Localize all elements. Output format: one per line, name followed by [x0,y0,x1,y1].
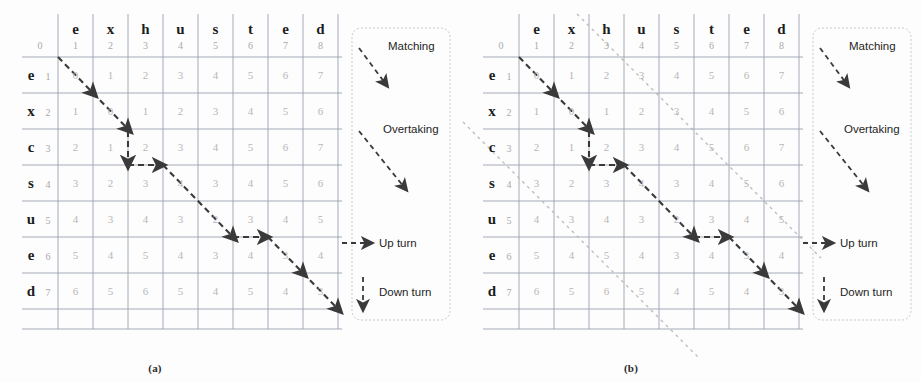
row-index-6: 7 [46,287,51,298]
cell-3-7: 5 [283,177,289,189]
legend-label-matching: Matching [849,40,896,52]
cell-5-5: 3 [674,249,680,261]
row-index-1: 2 [507,107,512,118]
figure-root: exhusted012345678e101234567x210123456c32… [0,0,921,382]
cell-1-3: 1 [143,105,149,117]
cell-1-3: 1 [604,105,610,117]
column-index-7: 7 [744,40,749,51]
legend-matching-arrow-icon [820,48,846,83]
cell-1-5: 3 [213,105,219,117]
cell-5-1: 5 [534,249,540,261]
cell-0-3: 2 [604,69,610,81]
cell-2-2: 1 [569,141,575,153]
row-letter-0: e [489,67,496,84]
cell-6-1: 6 [73,285,79,297]
caption-b: (b) [401,362,861,374]
panel-a: exhusted012345678e101234567x210123456c32… [0,0,460,382]
legend-label-down-turn: Down turn [379,286,431,298]
panel-b-svg [461,0,921,382]
legend-matching-arrow-icon [359,48,385,83]
cell-0-8: 7 [318,69,324,81]
cell-2-2: 1 [108,141,114,153]
cell-5-3: 5 [143,249,149,261]
column-index-6: 6 [248,40,253,51]
row-letter-1: x [27,103,35,120]
legend-label-overtaking: Overtaking [383,123,439,135]
cell-0-5: 4 [674,69,680,81]
cell-0-4: 3 [639,69,645,81]
column-index-0: 0 [499,40,504,51]
grid-lines-panel-b [483,14,803,329]
cell-3-1: 3 [73,177,79,189]
row-index-4: 5 [46,215,51,226]
cell-4-7: 4 [744,213,750,225]
cell-3-3: 3 [143,177,149,189]
cell-1-5: 3 [674,105,680,117]
cell-4-3: 4 [604,213,610,225]
column-index-1: 1 [534,40,539,51]
cell-5-7: 3 [744,249,750,261]
cell-0-6: 5 [248,69,254,81]
cell-5-2: 4 [108,249,114,261]
cell-1-7: 5 [283,105,289,117]
row-letter-0: e [28,67,35,84]
cell-3-4: 4 [639,177,645,189]
cell-2-7: 6 [283,141,289,153]
cell-6-3: 6 [143,285,149,297]
column-letter-1: e [72,21,79,38]
row-letter-5: e [28,247,35,264]
column-letter-4: u [176,21,184,38]
row-index-6: 7 [507,287,512,298]
cell-5-8: 4 [779,249,785,261]
column-letter-6: t [248,21,253,38]
column-index-1: 1 [73,40,78,51]
panel-a-svg [0,0,460,382]
legend-label-up-turn: Up turn [379,237,417,249]
cell-3-7: 5 [744,177,750,189]
row-letter-6: d [27,283,35,300]
legend-label-up-turn: Up turn [840,237,878,249]
cell-0-8: 7 [779,69,785,81]
column-index-8: 8 [318,40,323,51]
cell-0-7: 6 [744,69,750,81]
cell-5-2: 4 [569,249,575,261]
cell-2-8: 7 [779,141,785,153]
row-letter-2: c [489,139,496,156]
column-index-5: 5 [213,40,218,51]
legend-box-panel-b [813,28,911,320]
column-index-4: 4 [178,40,183,51]
column-letter-1: e [533,21,540,38]
cell-1-2: 0 [108,105,114,117]
cell-6-6: 5 [709,285,715,297]
cell-6-4: 5 [178,285,184,297]
cell-1-8: 6 [318,105,324,117]
cell-2-8: 7 [318,141,324,153]
legend-label-matching: Matching [388,40,435,52]
cell-0-2: 1 [569,69,575,81]
cell-3-6: 4 [709,177,715,189]
cell-2-4: 3 [639,141,645,153]
row-letter-5: e [489,247,496,264]
grid-lines-panel-a [22,14,342,329]
row-letter-4: u [27,211,35,228]
cell-1-8: 6 [779,105,785,117]
row-letter-3: s [489,175,495,192]
cell-1-4: 2 [639,105,645,117]
cell-4-2: 3 [569,213,575,225]
cell-4-8: 5 [779,213,785,225]
cell-4-6: 3 [248,213,254,225]
row-index-4: 5 [507,215,512,226]
cell-0-4: 3 [178,69,184,81]
caption-a: (a) [0,362,385,374]
cell-0-6: 5 [709,69,715,81]
column-index-5: 5 [674,40,679,51]
cell-0-1: 0 [534,69,540,81]
row-letter-6: d [488,283,496,300]
cell-6-6: 5 [248,285,254,297]
column-letter-6: t [709,21,714,38]
cell-1-2: 0 [569,105,575,117]
cell-5-7: 3 [283,249,289,261]
column-letter-3: h [141,21,149,38]
column-index-7: 7 [283,40,288,51]
column-index-2: 2 [108,40,113,51]
